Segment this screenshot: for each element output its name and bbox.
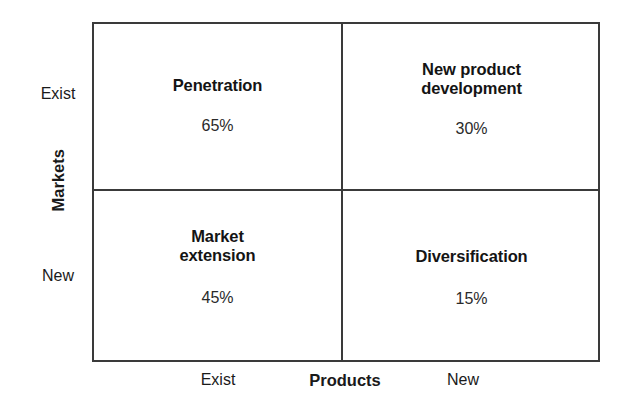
quadrant-title: Market extension (179, 227, 255, 265)
ansoff-matrix-diagram: Penetration 65% New product development … (0, 0, 622, 410)
quadrant-market-extension: Market extension 45% (94, 191, 341, 362)
quadrant-diversification: Diversification 15% (343, 191, 600, 362)
quadrant-title: Penetration (173, 76, 263, 95)
quadrant-value: 15% (455, 290, 487, 308)
quadrant-title: New product development (421, 60, 522, 98)
x-axis-tick-exist: Exist (176, 371, 260, 389)
quadrant-value: 30% (455, 120, 487, 138)
quadrant-title: Diversification (415, 247, 527, 266)
quadrant-new-product-development: New product development 30% (343, 24, 600, 189)
y-axis-title: Markets (49, 172, 68, 212)
quadrant-value: 65% (201, 117, 233, 135)
x-axis-title: Products (292, 371, 398, 390)
y-axis-tick-exist: Exist (30, 85, 86, 103)
y-axis-tick-new: New (30, 267, 86, 285)
quadrant-penetration: Penetration 65% (94, 24, 341, 189)
quadrant-value: 45% (201, 289, 233, 307)
x-axis-tick-new: New (424, 371, 502, 389)
